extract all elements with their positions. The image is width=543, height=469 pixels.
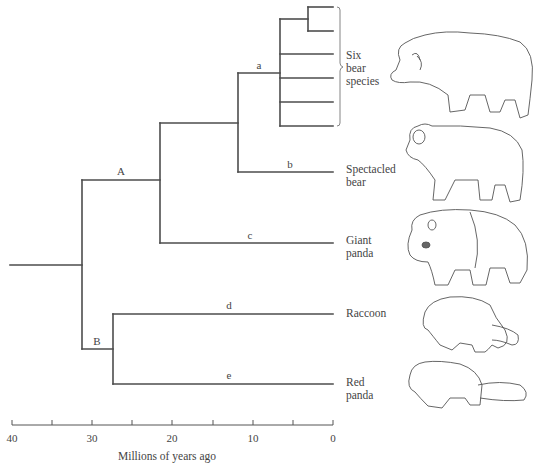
taxon-giant-panda: Giant panda	[346, 234, 373, 260]
phylogenetic-tree	[0, 0, 543, 469]
six-bears-bracket	[337, 7, 343, 126]
axis-tick-0: 0	[330, 432, 336, 444]
axis-tick-40: 40	[7, 432, 18, 444]
bear-illustration	[391, 32, 533, 118]
spectacled-bear-illustration	[406, 124, 523, 202]
axis-label: Millions of years ago	[118, 450, 216, 462]
red-panda-illustration	[409, 361, 526, 408]
branch-label-c: c	[248, 229, 253, 241]
branch-label-d: d	[226, 299, 232, 311]
taxon-red-panda: Red panda	[346, 376, 373, 402]
time-axis	[12, 420, 333, 425]
axis-tick-30: 30	[87, 432, 98, 444]
raccoon-illustration	[423, 297, 518, 352]
branch-label-e: e	[227, 369, 232, 381]
branch-label-a: a	[257, 59, 262, 71]
branch-label-B: B	[93, 335, 100, 347]
taxon-spectacled-bear: Spectacled bear	[346, 163, 396, 189]
taxon-raccoon: Raccoon	[346, 307, 386, 320]
axis-tick-10: 10	[248, 432, 259, 444]
branch-label-A: A	[117, 165, 125, 177]
axis-tick-20: 20	[167, 432, 178, 444]
taxon-six-bears: Six bear species	[346, 49, 379, 88]
giant-panda-illustration	[408, 210, 528, 285]
branch-label-b: b	[287, 158, 293, 170]
